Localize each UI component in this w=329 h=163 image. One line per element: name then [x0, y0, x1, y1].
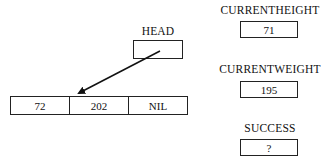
- node-cell-weight: 202: [69, 97, 128, 114]
- currentweight-box: 195: [240, 81, 298, 98]
- currentheight-box: 71: [240, 21, 298, 38]
- list-node: 72 202 NIL: [10, 96, 188, 115]
- currentheight-label: CURRENTHEIGHT: [215, 4, 325, 16]
- success-box: ?: [240, 139, 298, 156]
- head-label: HEAD: [133, 25, 183, 37]
- node-cell-height: 72: [11, 97, 69, 114]
- currentweight-label: CURRENTWEIGHT: [215, 63, 325, 75]
- node-cell-next: NIL: [128, 97, 187, 114]
- head-box: [133, 40, 183, 59]
- success-label: SUCCESS: [215, 122, 325, 134]
